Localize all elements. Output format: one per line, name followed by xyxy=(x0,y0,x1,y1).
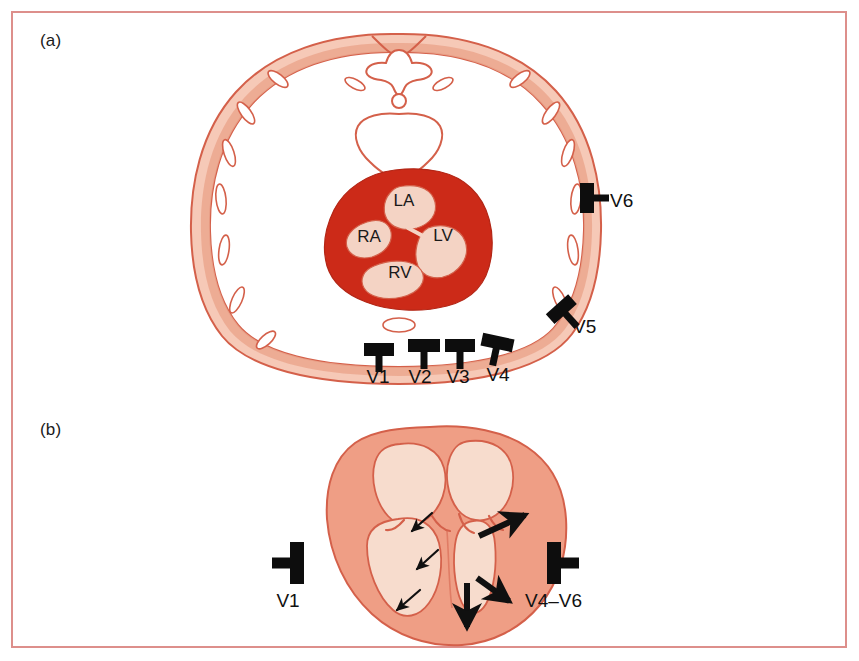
electrode-label-v1: V1 xyxy=(366,366,389,387)
electrode-label-v4: V4 xyxy=(486,364,510,385)
chamber-label-rv: RV xyxy=(388,263,412,282)
heart-outline xyxy=(327,426,567,645)
electrode-b-label-v1: V1 xyxy=(276,590,299,611)
panel-a-thorax: LA RA LV RV V1 V2 xyxy=(191,34,633,387)
sternum xyxy=(383,318,415,332)
chamber-label-la: LA xyxy=(394,191,415,210)
electrode-label-v5: V5 xyxy=(573,316,596,337)
spinal-canal xyxy=(392,94,406,108)
electrode-b-v1[interactable]: V1 xyxy=(272,542,304,611)
electrode-b-label-v4-v6: V4–V6 xyxy=(525,590,582,611)
cavity-left-atrium xyxy=(447,441,513,521)
electrode-v6[interactable]: V6 xyxy=(580,183,633,213)
figure-illustration: LA RA LV RV V1 V2 xyxy=(0,0,859,661)
figure-root: (a) (b) xyxy=(0,0,859,661)
panel-b-heart: V1 V4–V6 xyxy=(272,426,582,645)
chamber-label-lv: LV xyxy=(433,226,453,245)
electrode-label-v2: V2 xyxy=(408,366,431,387)
chamber-label-ra: RA xyxy=(357,227,381,246)
electrode-label-v3: V3 xyxy=(446,366,469,387)
electrode-label-v6: V6 xyxy=(610,190,633,211)
